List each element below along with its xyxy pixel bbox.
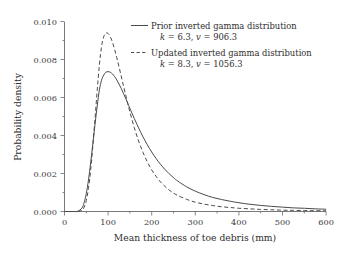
x-tick-label: 100 — [100, 217, 116, 227]
x-axis-title: Mean thickness of toe debris (mm) — [114, 232, 276, 243]
chart-figure: 0.000 0.002 0.004 0.006 0.008 0.010 0 — [0, 0, 346, 256]
chart-legend: Prior inverted gamma distribution k = 6.… — [131, 21, 312, 70]
x-tick-label: 300 — [187, 217, 203, 227]
y-tick-label: 0.002 — [34, 169, 57, 179]
legend-params-prior: k = 6.3, v = 906.3 — [160, 32, 237, 42]
y-axis-ticks — [61, 22, 65, 212]
x-tick-label: 600 — [318, 217, 334, 227]
legend-k-value-updated: = 8.3, — [165, 59, 196, 69]
legend-k-value-prior: = 6.3, — [165, 32, 196, 42]
y-tick-label: 0.006 — [34, 93, 57, 103]
y-axis-tick-labels: 0.000 0.002 0.004 0.006 0.008 0.010 — [34, 17, 57, 217]
x-axis-ticks — [65, 212, 327, 216]
legend-v-value-prior: = 906.3 — [201, 32, 237, 42]
legend-label-updated: Updated inverted gamma distribution — [151, 48, 312, 58]
x-axis-tick-labels: 0 100 200 300 400 500 600 — [62, 217, 334, 227]
legend-params-updated: k = 8.3, v = 1056.3 — [160, 59, 242, 69]
x-tick-label: 500 — [275, 217, 291, 227]
y-tick-label: 0.004 — [34, 131, 57, 141]
x-tick-label: 0 — [62, 217, 67, 227]
x-tick-label: 200 — [144, 217, 160, 227]
y-tick-label: 0.000 — [34, 207, 57, 217]
chart-svg: 0.000 0.002 0.004 0.006 0.008 0.010 0 — [0, 0, 346, 256]
y-axis-title: Probability density — [12, 72, 23, 161]
y-tick-label: 0.010 — [34, 17, 57, 27]
y-tick-label: 0.008 — [34, 55, 57, 65]
series-line-prior — [65, 72, 327, 212]
x-tick-label: 400 — [231, 217, 247, 227]
legend-label-prior: Prior inverted gamma distribution — [151, 21, 297, 31]
legend-v-value-updated: = 1056.3 — [201, 59, 243, 69]
